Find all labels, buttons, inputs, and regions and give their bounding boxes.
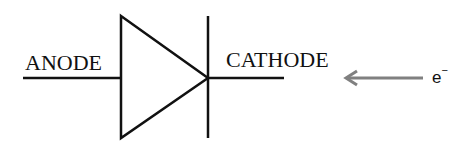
electron-label: e− [432, 64, 448, 87]
cathode-label: CATHODE [226, 47, 329, 72]
electron-flow-arrow [346, 71, 423, 85]
electron-charge: − [441, 64, 447, 76]
anode-label: ANODE [25, 50, 102, 75]
diode-canvas: ANODE CATHODE e− [0, 0, 467, 148]
diode-triangle [121, 16, 208, 138]
diode-diagram: ANODE CATHODE e− [0, 0, 467, 148]
